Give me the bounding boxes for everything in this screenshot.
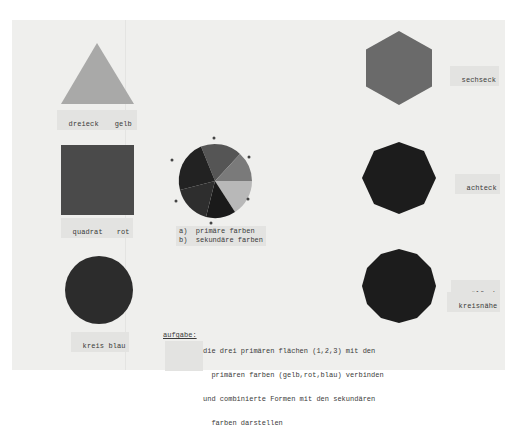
triangle-shape-name: dreieck: [69, 120, 99, 128]
task-line-4: farben darstellen: [203, 419, 384, 427]
square-color-name: rot: [117, 228, 130, 236]
task-line-3: und combinierte Formen mit den sekundäre…: [203, 395, 384, 403]
octagon-label: achteck: [455, 174, 500, 194]
task-line-1: die drei primären flächen (1,2,3) mit de…: [203, 347, 384, 355]
hexagon-shape: [365, 30, 433, 106]
triangle-color-name: gelb: [115, 120, 132, 128]
octagon-shape: [361, 141, 437, 215]
task-heading: aufgabe:: [163, 331, 197, 339]
task-body: die drei primären flächen (1,2,3) mit de…: [203, 331, 384, 429]
hexagon-label: sechseck: [450, 66, 499, 86]
wheel-marker-b-bottom: [210, 222, 213, 225]
legend-primary: a) primäre farben: [179, 227, 263, 236]
dodecagon-sublabel: kreisnähe: [447, 292, 500, 312]
triangle-shape: [60, 42, 136, 106]
circle-label: kreis blau: [71, 332, 129, 352]
triangle-label: dreieckgelb: [57, 110, 137, 130]
task-line-2: primären farben (gelb,rot,blau) verbinde…: [203, 371, 384, 379]
color-wheel-legend: a) primäre farben b) sekundäre farben: [176, 226, 266, 246]
color-wheel: [168, 134, 262, 228]
legend-secondary: b) sekundäre farben: [179, 236, 263, 245]
wheel-marker-a-top: [213, 137, 216, 140]
square-shape: [61, 145, 134, 215]
wheel-marker-a-lower-right: [247, 198, 250, 201]
wheel-marker-b-left: [171, 159, 174, 162]
square-label: quadratrot: [61, 218, 133, 238]
square-shape-name: quadrat: [73, 228, 103, 236]
task-label-patch: [165, 341, 203, 371]
circle-shape: [64, 255, 134, 325]
wheel-marker-b-right: [248, 156, 251, 159]
dodecagon-shape: [361, 248, 437, 324]
wheel-marker-a-lower-left: [175, 200, 178, 203]
